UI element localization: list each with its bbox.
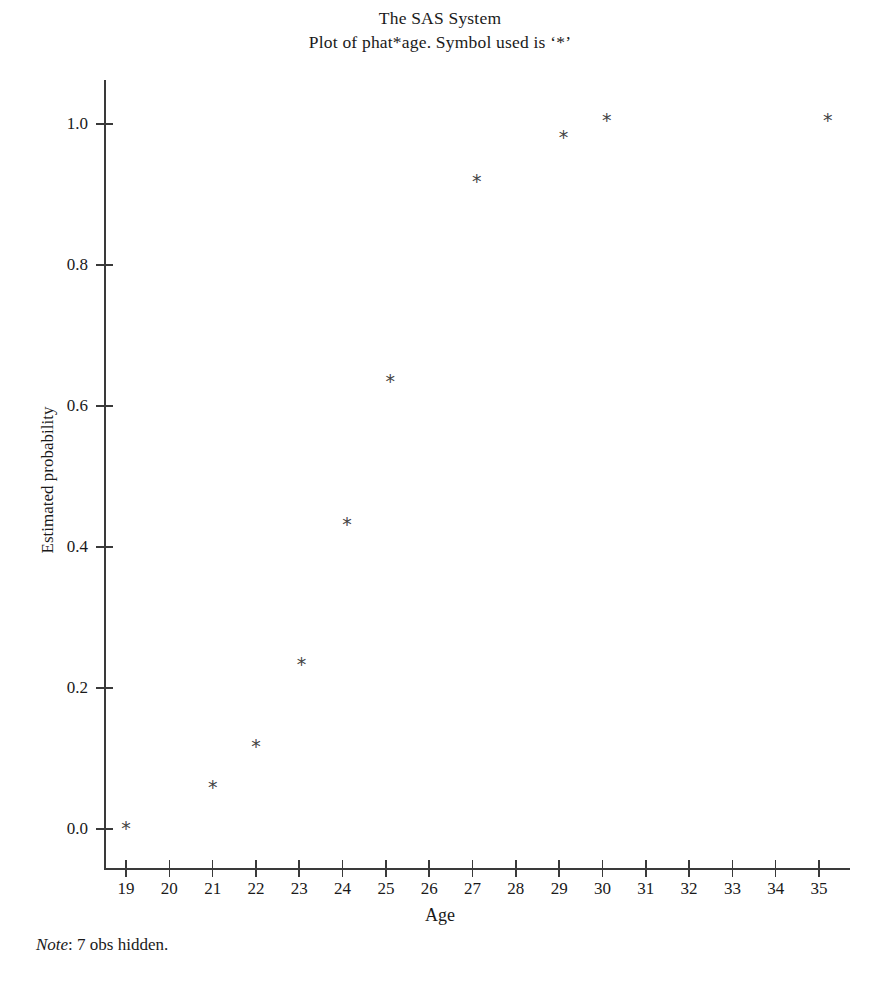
x-tick-mark: [602, 860, 604, 877]
x-tick-label: 21: [193, 880, 233, 898]
x-tick-label: 25: [366, 880, 406, 898]
x-tick-label: 32: [669, 880, 709, 898]
x-tick-mark: [558, 860, 560, 877]
y-tick-label: 0.6: [28, 397, 88, 414]
y-tick-mark: [96, 546, 113, 548]
y-axis-line: [104, 80, 106, 869]
y-tick-label: 0.2: [28, 679, 88, 696]
data-point-marker: *: [820, 111, 836, 129]
data-point-marker: *: [118, 819, 134, 837]
x-tick-mark: [169, 860, 171, 877]
x-tick-mark: [515, 860, 517, 877]
x-tick-label: 24: [323, 880, 363, 898]
x-tick-mark: [428, 860, 430, 877]
x-tick-mark: [645, 860, 647, 877]
y-tick-label: 0.0: [28, 820, 88, 837]
x-tick-mark: [212, 860, 214, 877]
footnote-prefix: Note: [36, 935, 68, 954]
footnote-separator: :: [68, 935, 77, 954]
x-tick-label: 20: [149, 880, 189, 898]
x-tick-label: 34: [756, 880, 796, 898]
x-tick-label: 35: [799, 880, 839, 898]
data-point-marker: *: [469, 172, 485, 190]
y-tick-mark: [96, 687, 113, 689]
data-point-marker: *: [599, 111, 615, 129]
y-tick-label: 1.0: [28, 115, 88, 132]
x-tick-mark: [342, 860, 344, 877]
x-tick-mark: [472, 860, 474, 877]
x-tick-mark: [775, 860, 777, 877]
x-tick-label: 31: [626, 880, 666, 898]
x-tick-label: 29: [539, 880, 579, 898]
x-axis-title: Age: [0, 905, 880, 926]
x-tick-label: 22: [236, 880, 276, 898]
x-tick-label: 19: [106, 880, 146, 898]
x-tick-mark: [125, 860, 127, 877]
y-tick-label: 0.8: [28, 256, 88, 273]
x-tick-mark: [688, 860, 690, 877]
x-tick-mark: [732, 860, 734, 877]
y-tick-label: 0.4: [28, 538, 88, 555]
x-tick-mark: [818, 860, 820, 877]
data-point-marker: *: [248, 737, 264, 755]
x-tick-label: 30: [582, 880, 622, 898]
x-tick-mark: [298, 860, 300, 877]
y-tick-mark: [96, 264, 113, 266]
footnote-text: 7 obs hidden.: [77, 935, 168, 954]
chart-page: The SAS System Plot of phat*age. Symbol …: [0, 0, 880, 981]
x-tick-label: 28: [496, 880, 536, 898]
data-point-marker: *: [293, 655, 309, 673]
x-tick-label: 27: [453, 880, 493, 898]
y-tick-mark: [96, 123, 113, 125]
x-tick-mark: [255, 860, 257, 877]
data-point-marker: *: [382, 372, 398, 390]
scatter-plot: 0.00.20.40.60.81.0 192021222324252627282…: [0, 0, 880, 981]
x-tick-label: 23: [279, 880, 319, 898]
data-point-marker: *: [339, 515, 355, 533]
x-axis-line: [104, 868, 850, 870]
y-tick-mark: [96, 405, 113, 407]
x-tick-mark: [385, 860, 387, 877]
x-tick-label: 33: [712, 880, 752, 898]
y-tick-mark: [96, 828, 113, 830]
data-point-marker: *: [555, 128, 571, 146]
x-tick-label: 26: [409, 880, 449, 898]
y-axis-title: Estimated probability: [38, 370, 58, 590]
data-point-marker: *: [205, 778, 221, 796]
footnote: Note: 7 obs hidden.: [36, 935, 168, 955]
